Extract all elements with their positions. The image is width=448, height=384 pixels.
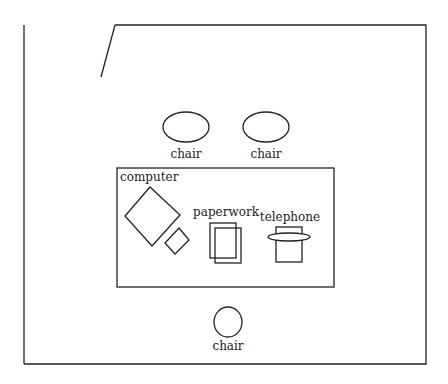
chair-top-left-icon [163, 112, 209, 142]
chair-top-left-label: chair [170, 147, 201, 161]
computer-keyboard-icon [165, 228, 189, 254]
computer-monitor-icon [125, 187, 180, 246]
floor-plan: chair chair computer paperwork telephone… [0, 0, 448, 384]
chair-bottom-icon [214, 307, 242, 337]
computer-label: computer [120, 170, 179, 184]
door [101, 25, 115, 77]
telephone-label: telephone [260, 210, 320, 224]
chair-top-right-label: chair [250, 147, 281, 161]
paperwork-label: paperwork [193, 205, 260, 219]
chair-bottom-label: chair [212, 339, 243, 353]
chair-top-right-icon [243, 112, 289, 142]
room-walls [24, 25, 426, 364]
telephone-handset-icon [268, 233, 310, 241]
telephone-base-icon [276, 227, 302, 262]
